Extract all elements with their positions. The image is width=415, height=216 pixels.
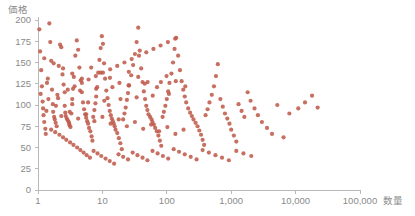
data-point bbox=[59, 114, 63, 118]
data-point bbox=[108, 122, 112, 126]
data-point bbox=[91, 115, 95, 119]
data-point bbox=[122, 60, 126, 64]
data-point bbox=[139, 66, 143, 70]
data-point bbox=[183, 152, 187, 156]
data-point bbox=[159, 80, 163, 84]
data-point bbox=[117, 136, 121, 140]
data-point bbox=[54, 104, 58, 108]
data-point bbox=[227, 158, 231, 162]
data-point bbox=[303, 100, 307, 104]
data-point bbox=[112, 162, 116, 166]
x-tick-label: 100,000 bbox=[343, 195, 377, 206]
data-point bbox=[43, 127, 47, 131]
data-point bbox=[138, 49, 142, 53]
data-point bbox=[101, 42, 105, 46]
data-point bbox=[126, 157, 130, 161]
data-point bbox=[52, 61, 56, 65]
data-point bbox=[84, 112, 88, 116]
data-point bbox=[216, 62, 220, 66]
data-point bbox=[44, 132, 48, 136]
data-point bbox=[55, 124, 59, 128]
data-point bbox=[144, 104, 148, 108]
data-point bbox=[184, 100, 188, 104]
scatter-chart: 0255075100125150175200 1101001,00010,000… bbox=[0, 0, 415, 216]
data-point bbox=[41, 100, 45, 104]
data-point bbox=[116, 152, 120, 156]
data-point bbox=[169, 71, 173, 75]
data-point bbox=[207, 100, 211, 104]
data-point bbox=[229, 128, 233, 132]
data-point bbox=[63, 90, 67, 94]
data-point bbox=[310, 94, 314, 98]
data-point bbox=[206, 107, 210, 111]
data-point bbox=[176, 54, 180, 58]
data-point bbox=[236, 102, 240, 106]
data-point bbox=[60, 72, 64, 76]
data-point bbox=[92, 149, 96, 153]
data-point bbox=[197, 128, 201, 132]
data-point bbox=[78, 88, 82, 92]
data-point bbox=[53, 130, 57, 134]
data-point bbox=[70, 71, 74, 75]
data-point bbox=[131, 151, 135, 155]
data-point bbox=[136, 75, 140, 79]
data-point bbox=[118, 141, 122, 145]
data-point bbox=[42, 56, 46, 60]
data-point bbox=[218, 97, 222, 101]
data-point bbox=[68, 110, 72, 114]
data-point bbox=[115, 131, 119, 135]
data-point bbox=[107, 103, 111, 107]
data-point bbox=[131, 63, 135, 67]
data-point bbox=[296, 106, 300, 110]
data-point bbox=[232, 134, 236, 138]
data-point bbox=[39, 68, 43, 72]
data-point bbox=[186, 106, 190, 110]
data-point bbox=[104, 88, 108, 92]
data-point bbox=[316, 105, 320, 109]
data-point bbox=[117, 117, 121, 121]
data-point bbox=[62, 83, 66, 87]
data-point bbox=[287, 111, 291, 115]
data-point bbox=[70, 102, 74, 106]
data-point bbox=[183, 94, 187, 98]
y-tick-label: 50 bbox=[20, 142, 31, 153]
data-point bbox=[46, 97, 50, 101]
data-point bbox=[102, 99, 106, 103]
data-point bbox=[155, 85, 159, 89]
data-point bbox=[64, 138, 68, 142]
data-point bbox=[180, 79, 184, 83]
data-point bbox=[57, 133, 61, 137]
data-point bbox=[120, 147, 124, 151]
data-point bbox=[260, 120, 264, 124]
data-point bbox=[174, 79, 178, 83]
data-point bbox=[44, 109, 48, 113]
data-point bbox=[201, 148, 205, 152]
data-point bbox=[151, 94, 155, 98]
data-point bbox=[275, 103, 279, 107]
data-point bbox=[63, 104, 67, 108]
data-point bbox=[214, 74, 218, 78]
data-point bbox=[150, 149, 154, 153]
data-point bbox=[162, 110, 166, 114]
data-point bbox=[117, 81, 121, 85]
data-point bbox=[172, 147, 176, 151]
y-axis-title: 価格 bbox=[8, 4, 28, 15]
data-point bbox=[160, 115, 164, 119]
data-point bbox=[171, 60, 175, 64]
data-point bbox=[239, 109, 243, 113]
data-point bbox=[108, 159, 112, 163]
data-point bbox=[220, 156, 224, 160]
data-point bbox=[94, 74, 98, 78]
data-point bbox=[61, 66, 65, 70]
data-point bbox=[199, 133, 203, 137]
data-point bbox=[143, 97, 147, 101]
y-tick-label: 25 bbox=[20, 163, 31, 174]
data-point bbox=[93, 101, 97, 105]
data-point bbox=[249, 154, 253, 158]
x-tick-label: 10 bbox=[97, 195, 108, 206]
data-point bbox=[56, 96, 60, 100]
data-point bbox=[100, 115, 104, 119]
y-axis: 0255075100125150175200 bbox=[15, 14, 38, 195]
data-point bbox=[234, 149, 238, 153]
data-point bbox=[223, 111, 227, 115]
